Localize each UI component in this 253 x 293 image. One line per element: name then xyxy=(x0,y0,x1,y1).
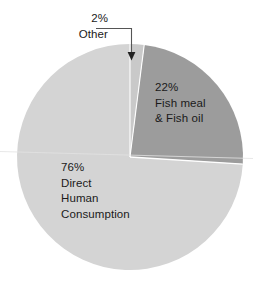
slice-label-other-name: Other xyxy=(48,27,108,43)
pie-chart: 2% Other 22% Fish meal & Fish oil 76% Di… xyxy=(0,0,253,293)
slice-label-fishmeal-line1: Fish meal xyxy=(155,96,206,112)
slice-label-other: 2% Other xyxy=(48,11,108,42)
slice-label-direct-line1: Direct xyxy=(61,176,130,192)
pie-chart-graphic xyxy=(0,0,253,293)
slice-label-fishmeal-line2: & Fish oil xyxy=(155,111,206,127)
slice-label-direct-percent: 76% xyxy=(61,160,130,176)
slice-label-fish-meal-fish-oil: 22% Fish meal & Fish oil xyxy=(155,80,206,127)
slice-label-fishmeal-percent: 22% xyxy=(155,80,206,96)
slice-label-other-percent: 2% xyxy=(48,11,108,27)
slice-label-direct-line2: Human xyxy=(61,191,130,207)
slice-label-direct-line3: Consumption xyxy=(61,207,130,223)
slice-label-direct-human-consumption: 76% Direct Human Consumption xyxy=(61,160,130,222)
